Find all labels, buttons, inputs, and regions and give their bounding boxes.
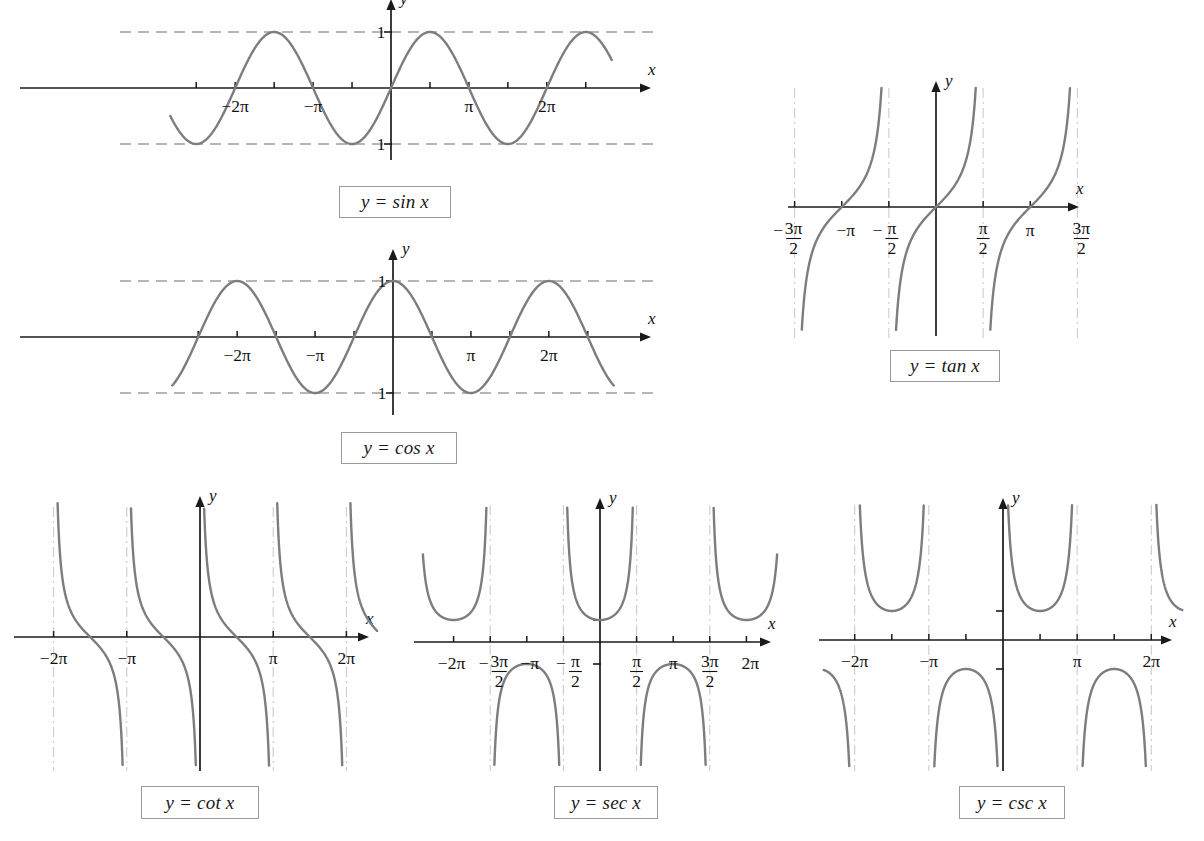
x-axis-arrow [1161,635,1172,644]
svg-text:−π: −π [919,651,938,671]
svg-text:−: − [872,220,882,240]
function-curve [277,503,342,765]
label-cosine: y = cos x [341,432,457,464]
x-tick-label: 2π [338,648,356,668]
function-curve [1083,669,1146,766]
x-axis-arrow [640,83,651,92]
figure-cosecant: xy−2π−ππ2π [805,495,1204,775]
function-curve [1008,505,1072,611]
cosine-plot: xy11−2π−ππ2π [0,248,680,426]
svg-text:π: π [887,218,896,238]
function-curve [860,505,924,611]
x-tick-label: π2 [630,651,643,691]
axes: xy [819,488,1177,771]
x-tick-label: −2π [40,648,68,668]
axes: xy [788,71,1084,336]
y-axis-label: y [943,71,953,90]
x-axis-label: x [1075,179,1084,198]
cotangent-plot: xy−2π−ππ2π [0,495,400,775]
svg-text:π: π [464,96,473,116]
x-tick-label: π [669,653,678,673]
x-tick-label: −π2 [556,651,582,691]
svg-text:2: 2 [1077,238,1086,258]
x-tick-label: 2π [742,653,760,673]
function-curve [934,669,997,766]
x-tick-label: 2π [538,96,556,116]
function-curve [641,664,706,765]
cosecant-plot: xy−2π−ππ2π [805,495,1204,775]
figure-tangent: xy−3π2−π−π2π2π3π2 [770,80,1110,342]
y-axis-label: y [207,486,217,505]
x-tick-label: −2π [438,653,466,673]
figure-sine: xy11−2π−ππ2π [0,0,680,175]
svg-text:2π: 2π [742,653,760,673]
label-tangent: y = tan x [890,350,1000,382]
function-curve [824,670,850,766]
x-tick-label: −2π [841,651,869,671]
svg-text:−: − [556,653,566,673]
svg-text:2: 2 [979,238,988,258]
y-axis-arrow [388,249,397,260]
x-axis-label: x [1168,612,1177,631]
sine-plot: xy11−2π−ππ2π [0,0,680,175]
x-tick-label: π2 [977,218,990,258]
x-tick-label: π [1026,220,1035,240]
label-sine: y = sin x [339,186,451,218]
x-axis-label: x [767,614,776,633]
x-axis-label: x [647,60,656,79]
function-curve [802,88,882,330]
y-axis-arrow [195,496,204,507]
function-curve [494,664,559,765]
svg-text:2π: 2π [338,648,356,668]
function-curve [423,508,486,620]
svg-text:−2π: −2π [841,651,869,671]
svg-text:−π: −π [520,653,539,673]
figure-secant: xy−2π−3π2−π−π2π2π3π22π [400,495,800,775]
x-tick-label: −π [306,345,325,365]
label-secant: y = sec x [554,786,658,819]
label-cosecant: y = csc x [959,786,1065,819]
x-tick-label: −π [304,96,323,116]
x-tick-label: π [269,648,278,668]
tick-labels: −2π−ππ2π [40,648,355,668]
svg-text:3π: 3π [490,651,508,671]
function-curve [990,88,1070,330]
y-axis-label: y [400,239,410,258]
svg-text:−2π: −2π [221,96,249,116]
y-axis-label: y [1010,488,1020,507]
tick-labels: −2π−3π2−π−π2π2π3π22π [438,651,759,691]
x-tick-label: π [466,345,475,365]
x-tick-label: −π [919,651,938,671]
svg-text:π: π [571,651,580,671]
svg-text:π: π [632,651,641,671]
svg-text:2: 2 [632,671,641,691]
y-tick-label: 1 [378,272,387,291]
x-axis-arrow [760,637,771,646]
svg-text:3π: 3π [701,651,719,671]
x-tick-label: −π [117,648,136,668]
y-tick-label: 1 [377,23,386,42]
y-axis-arrow [595,498,604,509]
svg-text:2: 2 [887,238,896,258]
figure-cosine: xy11−2π−ππ2π [0,248,680,426]
x-tick-label: −π [836,220,855,240]
svg-text:−π: −π [306,345,325,365]
x-axis-arrow [358,632,369,641]
y-axis-arrow [386,0,395,10]
svg-text:−2π: −2π [438,653,466,673]
axes: xy [414,488,776,771]
x-axis-label: x [647,309,656,328]
svg-text:π: π [1026,220,1035,240]
svg-text:−π: −π [304,96,323,116]
svg-text:2: 2 [571,671,580,691]
svg-text:3π: 3π [1073,218,1091,238]
function-curve [58,503,123,765]
x-tick-label: −π [520,653,539,673]
x-tick-label: 3π2 [701,651,719,691]
svg-text:2π: 2π [1142,651,1160,671]
y-tick-label: 1 [377,135,386,154]
svg-text:π: π [669,653,678,673]
svg-text:π: π [979,218,988,238]
y-tick-label: 1 [378,384,387,403]
svg-text:−π: −π [117,648,136,668]
